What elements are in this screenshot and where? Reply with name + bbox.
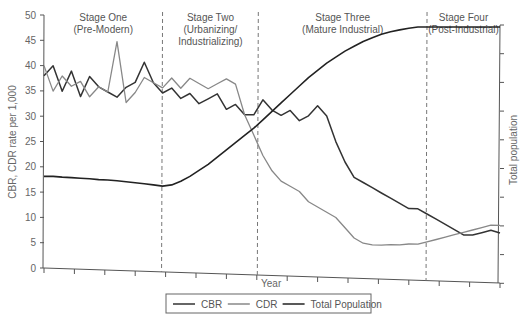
svg-text:Stage One: Stage One — [79, 12, 127, 23]
series-cdr — [44, 42, 500, 246]
legend: CBRCDRTotal Population — [166, 294, 382, 313]
svg-text:Stage Two: Stage Two — [187, 12, 235, 23]
y-axis-right — [498, 25, 504, 283]
legend-label: CBR — [201, 299, 222, 310]
stage-label-2: Stage Two(Urbanizing/Industrializing) — [178, 12, 242, 47]
y-tick-label: 40 — [25, 60, 37, 71]
stage-label-4: Stage Four(Post-Industrial) — [428, 12, 499, 35]
stage-label-1: Stage One(Pre-Modern) — [74, 12, 133, 35]
series-lines — [44, 27, 500, 245]
y-tick-label: 15 — [25, 187, 37, 198]
x-axis-title: Year — [261, 278, 282, 289]
y-tick-label: 50 — [25, 10, 37, 21]
stage-dividers — [162, 12, 427, 281]
svg-text:(Pre-Modern): (Pre-Modern) — [74, 24, 133, 35]
svg-text:Stage Four: Stage Four — [439, 12, 489, 23]
series-cbr — [44, 62, 500, 235]
y-tick-label: 25 — [25, 136, 37, 147]
y-tick-label: 20 — [25, 161, 37, 172]
y-axis-title: CBR, CDR rate per 1,000 — [7, 85, 18, 199]
stage-labels: Stage One(Pre-Modern)Stage Two(Urbanizin… — [74, 12, 499, 47]
y2-axis-line — [498, 25, 500, 283]
stage-divider — [426, 12, 427, 281]
svg-text:Stage Three: Stage Three — [315, 12, 370, 23]
svg-text:(Post-Industrial): (Post-Industrial) — [428, 24, 499, 35]
y-axis-left: 05101520253035404550 — [25, 10, 44, 274]
y-tick-label: 35 — [25, 85, 37, 96]
svg-text:Industrializing): Industrializing) — [178, 36, 242, 47]
stage-label-3: Stage Three(Mature Industrial) — [302, 12, 383, 35]
series-total-population — [44, 27, 500, 186]
y2-axis-title: Total population — [508, 115, 519, 185]
y-tick-label: 0 — [30, 263, 36, 274]
demographic-transition-chart: 05101520253035404550 Stage One(Pre-Moder… — [0, 0, 522, 323]
svg-text:(Urbanizing/: (Urbanizing/ — [183, 24, 237, 35]
stage-divider — [162, 12, 163, 272]
y-tick-label: 45 — [25, 35, 37, 46]
legend-label: Total Population — [311, 299, 382, 310]
y-tick-label: 10 — [25, 212, 37, 223]
y-tick-label: 30 — [25, 111, 37, 122]
svg-text:(Mature Industrial): (Mature Industrial) — [302, 24, 383, 35]
y-tick-label: 5 — [30, 237, 36, 248]
legend-label: CDR — [256, 299, 278, 310]
